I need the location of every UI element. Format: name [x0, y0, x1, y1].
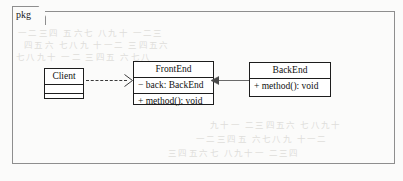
uml-operations-compartment	[45, 94, 83, 102]
uml-attribute-row: − back: BackEnd	[134, 78, 213, 94]
uml-attributes-compartment	[45, 85, 83, 94]
association-line	[216, 80, 250, 81]
uml-operation-row: + method(): void	[134, 94, 213, 109]
dependency-arrowhead-icon	[124, 74, 133, 87]
uml-class-backend[interactable]: BackEnd + method(): void	[249, 62, 331, 97]
package-tab-label: pkg	[16, 8, 31, 21]
uml-class-name: FrontEnd	[134, 62, 213, 78]
uml-class-client[interactable]: Client	[44, 68, 84, 99]
dependency-line	[86, 80, 127, 81]
uml-class-frontend[interactable]: FrontEnd − back: BackEnd + method(): voi…	[133, 61, 214, 105]
association-arrowhead-icon	[211, 76, 219, 85]
uml-class-name: BackEnd	[250, 63, 330, 79]
uml-class-name: Client	[45, 69, 83, 85]
uml-diagram-canvas: 一二三四 五六七 八九十 一二三 四五六 七八九 十一二 三四五六 七八九十 一…	[0, 0, 403, 181]
uml-operation-row: + method(): void	[250, 79, 330, 94]
